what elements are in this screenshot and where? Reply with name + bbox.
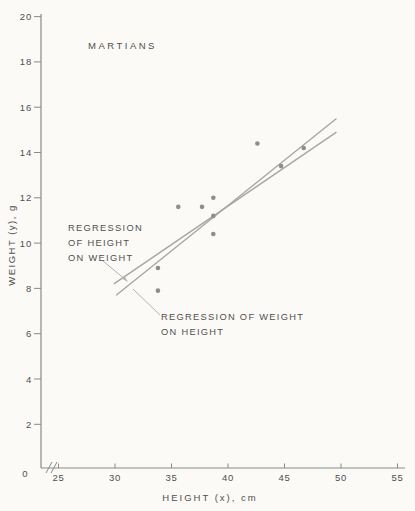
- data-point: [156, 288, 161, 293]
- chart-title: MARTIANS: [88, 40, 157, 51]
- weight-on-height-leader-line: [133, 289, 160, 315]
- y-tick-label: 20: [20, 11, 32, 22]
- y-tick-label: 12: [20, 192, 32, 203]
- y-tick-label: 6: [26, 328, 32, 339]
- x-tick-label: 55: [391, 472, 403, 483]
- y-tick-label: 8: [26, 283, 32, 294]
- y-tick-label: 18: [20, 56, 32, 67]
- origin-tick-label: 0: [18, 468, 32, 479]
- figure: 246810121416182025303540455055 MARTIANS …: [0, 0, 415, 511]
- data-point: [211, 196, 216, 201]
- x-tick-label: 25: [52, 472, 64, 483]
- data-point: [255, 141, 260, 146]
- regression-of-weight-on-height-line: [114, 132, 337, 284]
- annotation-text-line: REGRESSION: [68, 221, 143, 236]
- y-axis-title: WEIGHT (y), g: [6, 190, 17, 300]
- annotation-regression-of-weight-on-height: REGRESSION OF WEIGHT ON HEIGHT: [161, 310, 304, 339]
- y-tick-label: 10: [20, 238, 32, 249]
- data-point: [279, 164, 284, 169]
- x-tick-label: 30: [109, 472, 121, 483]
- annotation-text-line: OF HEIGHT: [68, 236, 143, 251]
- x-tick-label: 50: [335, 472, 347, 483]
- annotation-regression-of-height-on-weight: REGRESSION OF HEIGHT ON WEIGHT: [68, 221, 143, 266]
- x-axis-title: HEIGHT (x), cm: [130, 492, 290, 503]
- x-tick-label: 35: [165, 472, 177, 483]
- data-point: [301, 146, 306, 151]
- y-tick-label: 2: [26, 419, 32, 430]
- data-point: [200, 205, 205, 210]
- annotation-text-line: REGRESSION OF WEIGHT: [161, 310, 304, 325]
- y-tick-label: 14: [20, 147, 32, 158]
- data-point: [211, 232, 216, 237]
- annotation-text-line: ON WEIGHT: [68, 251, 143, 266]
- y-tick-label: 4: [26, 374, 32, 385]
- data-point: [156, 266, 161, 271]
- x-tick-label: 40: [222, 472, 234, 483]
- x-tick-label: 45: [278, 472, 290, 483]
- data-point: [176, 205, 181, 210]
- plot-canvas: 246810121416182025303540455055: [0, 0, 415, 511]
- y-tick-label: 16: [20, 102, 32, 113]
- annotation-text-line: ON HEIGHT: [161, 325, 304, 340]
- data-point: [211, 214, 216, 219]
